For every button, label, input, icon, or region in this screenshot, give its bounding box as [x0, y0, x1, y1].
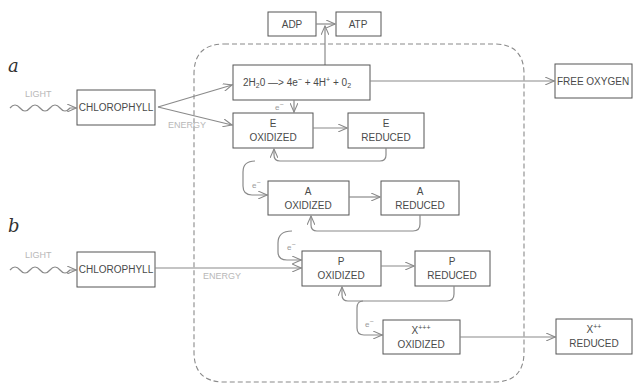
svg-text:2H20 —> 4e− + 4H+ + 02: 2H20 —> 4e− + 4H+ + 02: [243, 76, 351, 89]
svg-text:A: A: [305, 186, 312, 197]
light-label-a: LIGHT: [25, 89, 52, 99]
electron-label-4: e−: [365, 318, 374, 329]
panel-label-a: a: [8, 55, 19, 76]
photosynthesis-diagram: a b LIGHT CHLOROPHYLL ENERGY ADP ATP 2H2…: [0, 0, 638, 388]
node-free-oxygen: FREE OXYGEN: [555, 64, 632, 98]
svg-text:REDUCED: REDUCED: [361, 132, 410, 143]
energy-label-a: ENERGY: [168, 120, 206, 130]
svg-text:OXIDIZED: OXIDIZED: [317, 270, 364, 281]
node-x-oxidized: X+++ OXIDIZED: [383, 320, 460, 354]
light-wave-a: [10, 105, 76, 111]
electron-label-3: e−: [287, 241, 296, 252]
node-atp: ATP: [336, 12, 381, 36]
svg-text:REDUCED: REDUCED: [427, 270, 476, 281]
electron-label-2: e−: [252, 179, 261, 190]
node-adp: ADP: [268, 12, 316, 36]
svg-text:FREE OXYGEN: FREE OXYGEN: [557, 76, 629, 87]
svg-text:E: E: [383, 118, 390, 129]
node-a-reduced: A REDUCED: [381, 181, 459, 215]
node-e-oxidized: E OXIDIZED: [233, 113, 313, 148]
panel-label-b: b: [8, 215, 20, 236]
svg-text:OXIDIZED: OXIDIZED: [397, 339, 444, 350]
svg-text:P: P: [338, 256, 345, 267]
svg-text:A: A: [417, 186, 424, 197]
svg-text:OXIDIZED: OXIDIZED: [249, 132, 296, 143]
svg-text:CHLOROPHYLL: CHLOROPHYLL: [79, 264, 154, 275]
e-reduced-return-arrow: [274, 148, 386, 161]
node-e-reduced: E REDUCED: [348, 113, 424, 148]
light-label-b: LIGHT: [25, 250, 52, 260]
node-chlorophyll-a: CHLOROPHYLL: [77, 90, 155, 125]
node-p-reduced: P REDUCED: [415, 251, 490, 286]
electron-label-1: e−: [275, 101, 284, 112]
node-p-oxidized: P OXIDIZED: [302, 251, 381, 286]
energy-arrow-to-water: [158, 85, 232, 107]
node-a-oxidized: A OXIDIZED: [268, 181, 349, 215]
node-water-reaction: 2H20 —> 4e− + 4H+ + 02: [233, 65, 370, 100]
svg-text:REDUCED: REDUCED: [395, 200, 444, 211]
a-reduced-return-arrow: [311, 215, 420, 231]
node-x-reduced: X++ REDUCED: [556, 319, 632, 354]
svg-text:CHLOROPHYLL: CHLOROPHYLL: [79, 102, 154, 113]
svg-text:ADP: ADP: [282, 19, 303, 30]
svg-text:REDUCED: REDUCED: [569, 338, 618, 349]
svg-text:E: E: [270, 118, 277, 129]
svg-text:ATP: ATP: [349, 19, 368, 30]
svg-text:P: P: [449, 256, 456, 267]
p-reduced-return-arrow: [342, 286, 454, 301]
node-chlorophyll-b: CHLOROPHYLL: [77, 252, 155, 287]
svg-text:OXIDIZED: OXIDIZED: [284, 200, 331, 211]
light-wave-b: [10, 267, 76, 273]
energy-label-b: ENERGY: [203, 271, 241, 281]
